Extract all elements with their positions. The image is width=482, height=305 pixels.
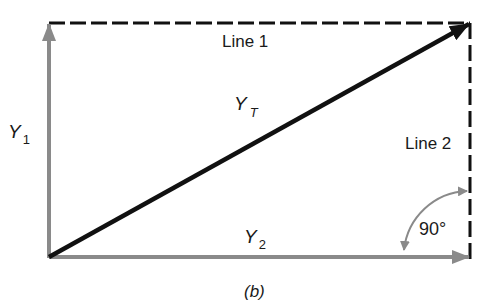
- label-y2: Y2: [244, 226, 266, 252]
- label-angle-90: 90°: [419, 219, 446, 239]
- figure-caption: (b): [244, 282, 265, 301]
- label-line-2: Line 2: [405, 134, 451, 153]
- label-line-1: Line 1: [222, 32, 268, 51]
- label-yt: YT: [234, 93, 259, 120]
- vector-diagram: Line 1 Line 2 Y1 YT Y2 90° (b): [0, 0, 482, 305]
- label-y1: Y1: [8, 121, 30, 147]
